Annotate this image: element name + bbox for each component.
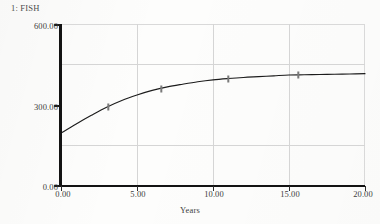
series-marker-1-3 xyxy=(227,75,228,82)
x-tick-label-20: 20.00 xyxy=(353,189,373,199)
y-tick-label-600: 600.00 xyxy=(34,21,58,31)
y-tick-label-300: 300.00 xyxy=(34,102,58,112)
legend-entry-fish: 1: FISH xyxy=(11,3,40,13)
series-marker-1-4 xyxy=(297,72,298,79)
x-axis-title: Years xyxy=(0,205,380,215)
legend: 1: FISH xyxy=(11,3,40,13)
x-tick-label-15: 15.00 xyxy=(280,189,300,199)
x-tick-label-10: 10.00 xyxy=(204,189,224,199)
chart-screenshot: 1: FISH 600.00 300.00 0.00 0.00 5.00 10.… xyxy=(0,0,380,224)
x-tick-label-5: 5.00 xyxy=(130,189,145,199)
plot-area xyxy=(61,24,365,186)
series-marker-1-2 xyxy=(161,85,162,92)
x-tick-label-0: 0.00 xyxy=(55,189,70,199)
series-marker-1-1 xyxy=(107,103,108,110)
